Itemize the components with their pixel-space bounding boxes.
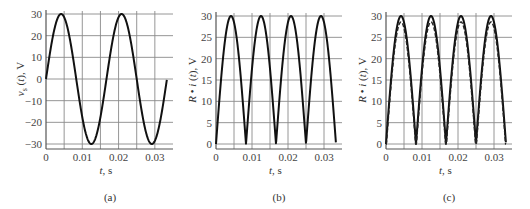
- chart-panel-c: 05101520253000.010.020.03t, sR • i (t), …: [0, 0, 530, 209]
- y-tick-label: 20: [371, 53, 383, 65]
- y-tick-label: 25: [371, 31, 383, 43]
- y-tick-label: 10: [371, 95, 383, 107]
- y-axis-label: R • i (t), V: [356, 57, 369, 104]
- y-tick-label: 15: [371, 74, 383, 86]
- x-tick-label: 0: [383, 151, 389, 163]
- x-tick-label: 0.01: [412, 151, 431, 163]
- panel-caption: (c): [443, 191, 456, 204]
- x-tick-label: 0.03: [484, 151, 504, 163]
- x-tick-label: 0.02: [448, 151, 467, 163]
- y-tick-label: 0: [377, 138, 383, 150]
- y-tick-label: 30: [371, 10, 383, 22]
- chart-c: 05101520253000.010.020.03t, sR • i (t), …: [0, 0, 530, 209]
- grid: [386, 13, 512, 149]
- x-axis-label: t, s: [439, 164, 452, 176]
- y-tick-label: 5: [377, 117, 383, 129]
